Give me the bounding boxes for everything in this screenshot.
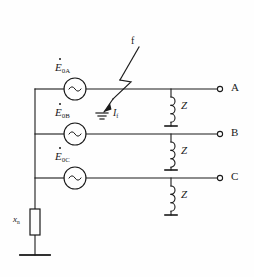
- circuit-schematic-svg: [0, 0, 254, 277]
- phasor-dot-c: [59, 147, 61, 149]
- circuit-diagram: E0A E0B E0C Z Z Z A B C f If xn: [0, 0, 254, 277]
- emf-subscript-b: 0B: [62, 112, 70, 119]
- terminal-label-a: A: [231, 82, 239, 93]
- emf-symbol-c: E: [55, 150, 62, 162]
- inductor-icon-c: [171, 186, 175, 211]
- load-label-b: Z: [181, 145, 187, 156]
- ac-sine-glyph-c: [69, 176, 81, 181]
- ac-sine-glyph-b: [69, 132, 81, 137]
- emf-label-b: E0B: [55, 107, 70, 118]
- emf-symbol-a: E: [55, 61, 62, 73]
- inductor-icon-b: [171, 142, 175, 167]
- terminal-label-c: C: [231, 171, 238, 182]
- terminal-node-c: [217, 175, 222, 180]
- emf-symbol-b: E: [55, 106, 62, 118]
- inductor-icon-a: [171, 97, 175, 122]
- emf-subscript-c: 0C: [62, 156, 70, 163]
- fault-marker-label: f: [131, 36, 134, 46]
- emf-subscript-a: 0A: [62, 67, 70, 74]
- phasor-dot-b: [59, 103, 61, 105]
- impedance-box-icon: [30, 209, 40, 235]
- neutral-subscript: n: [17, 219, 20, 225]
- load-label-a: Z: [181, 100, 187, 111]
- fault-ground-icon: [96, 113, 108, 119]
- ac-sine-glyph-a: [69, 87, 81, 92]
- fault-arrowhead-icon: [104, 103, 112, 112]
- emf-label-a: E0A: [55, 62, 70, 73]
- terminal-label-b: B: [231, 127, 238, 138]
- neutral-impedance-label: xn: [13, 215, 20, 224]
- terminal-node-a: [217, 86, 222, 91]
- terminal-node-b: [217, 131, 222, 136]
- phasor-dot-a: [59, 58, 61, 60]
- fault-arrow-icon: [104, 47, 139, 112]
- emf-label-c: E0C: [55, 151, 70, 162]
- fault-current-label: If: [113, 108, 118, 118]
- load-label-c: Z: [181, 189, 187, 200]
- fault-current-subscript: f: [116, 112, 118, 119]
